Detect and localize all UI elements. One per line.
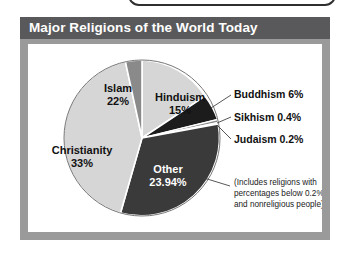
note-line-1: (Includes religions with	[234, 178, 317, 187]
pie-chart-svg: Islam 22% Hinduism 15% Christianity 33% …	[28, 44, 322, 232]
slice-label-islam-value: 22%	[107, 95, 129, 107]
callout-label-buddhism: Buddhism 6%	[234, 88, 304, 100]
slice-label-hinduism-name: Hinduism	[155, 91, 205, 103]
figure-title: Major Religions of the World Today	[29, 20, 258, 35]
top-rounded-tab-stub	[128, 0, 336, 6]
pie-chart-panel: Islam 22% Hinduism 15% Christianity 33% …	[28, 44, 322, 232]
pie-slices	[64, 60, 220, 216]
pie-callout-labels: Buddhism 6% Sikhism 0.4% Judaism 0.2%	[234, 88, 304, 145]
slice-label-islam-name: Islam	[104, 82, 132, 94]
note-line-3: and nonreligious people)	[234, 200, 322, 209]
leader-line-sikhism	[217, 117, 231, 123]
figure-title-bar: Major Religions of the World Today	[20, 17, 330, 39]
callout-label-judaism: Judaism 0.2%	[234, 133, 304, 145]
slice-label-other-name: Other	[153, 163, 183, 175]
note-line-2: percentages below 0.2%	[234, 189, 322, 198]
slice-label-other-value: 23.94%	[149, 176, 187, 188]
slice-label-christianity-name: Christianity	[52, 144, 113, 156]
pie-annotation-note: (Includes religions with percentages bel…	[234, 178, 322, 209]
figure-frame: Major Religions of the World Today	[20, 17, 330, 240]
leader-line-buddhism	[211, 95, 231, 108]
slice-label-christianity-value: 33%	[71, 157, 93, 169]
leader-line-note	[204, 178, 230, 186]
callout-label-sikhism: Sikhism 0.4%	[234, 111, 302, 123]
slice-label-hinduism-value: 15%	[169, 104, 191, 116]
